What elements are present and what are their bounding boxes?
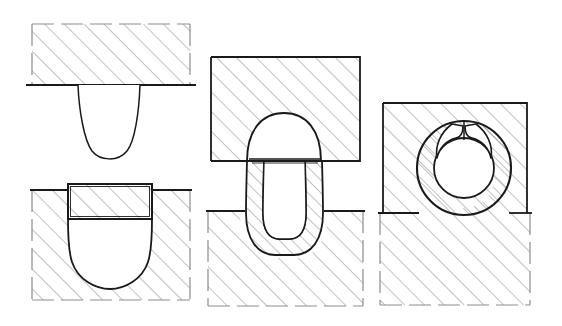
panel-stage-4 (378, 103, 532, 305)
upper-tool-block-hatching (32, 24, 190, 85)
punch-insert-block (68, 184, 152, 219)
figure-canvas (0, 0, 562, 326)
punch-insert-hatching (68, 184, 152, 219)
upper-tool-block (32, 24, 190, 85)
workpiece-inner-cavity (263, 161, 306, 239)
forming-process-figure (0, 0, 562, 326)
